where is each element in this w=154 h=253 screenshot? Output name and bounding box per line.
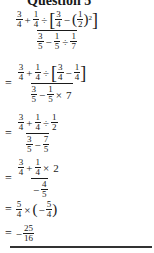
step-6-result: = − 2516 bbox=[5, 224, 34, 243]
denominator: 35 − 15 ÷ 17 bbox=[37, 30, 77, 51]
step-3: = 34 + 14 ÷ 12 35 − 75 bbox=[5, 113, 60, 154]
fraction: 14 bbox=[35, 158, 42, 177]
fraction: 34 bbox=[55, 10, 62, 29]
complex-fraction: 34 + 14 ÷ [ 34 − 14 ] 35 − 15 × 7 bbox=[16, 63, 88, 104]
complex-fraction: 34 + 14 × 2 − 45 bbox=[16, 158, 63, 199]
complex-fraction: 34 + 14 ÷ 12 35 − 75 bbox=[16, 113, 60, 154]
fraction: 75 bbox=[43, 135, 50, 154]
step-5: = 54 × ( − 54 ) bbox=[5, 200, 57, 219]
fraction: 17 bbox=[70, 32, 77, 51]
fraction: 2516 bbox=[23, 224, 34, 243]
fraction: 45 bbox=[41, 180, 48, 199]
fraction: 34 bbox=[18, 63, 25, 82]
fraction: 34 bbox=[57, 63, 64, 82]
step-2: = 34 + 14 ÷ [ 34 − 14 ] 35 − 15 × 7 bbox=[5, 63, 88, 104]
fraction: 35 bbox=[37, 32, 44, 51]
denominator: 35 − 15 × 7 bbox=[31, 83, 74, 104]
denominator: − 45 bbox=[31, 178, 48, 199]
fraction: 34 bbox=[18, 158, 25, 177]
fraction: 14 bbox=[35, 63, 42, 82]
divider-line bbox=[10, 246, 152, 248]
fraction: 15 bbox=[47, 85, 54, 104]
step-1: 34 + 14 ÷ [ 34 − ( 12 )2 ] 35 − 15 ÷ 17 bbox=[14, 10, 100, 51]
fraction: 15 bbox=[54, 32, 61, 51]
fraction: 14 bbox=[33, 10, 40, 29]
numerator: 34 + 14 ÷ [ 34 − ( 12 )2 ] bbox=[14, 10, 100, 30]
step-4: = 34 + 14 × 2 − 45 bbox=[5, 158, 63, 199]
fraction: 35 bbox=[31, 85, 38, 104]
fraction: 12 bbox=[51, 113, 58, 132]
numerator: 34 + 14 × 2 bbox=[16, 158, 63, 178]
question-title: Question 5 bbox=[27, 0, 91, 9]
fraction: 14 bbox=[35, 113, 42, 132]
fraction: 54 bbox=[16, 200, 23, 219]
denominator: 35 − 75 bbox=[26, 133, 49, 154]
numerator: 34 + 14 ÷ [ 34 − 14 ] bbox=[16, 63, 88, 83]
fraction: 35 bbox=[26, 135, 33, 154]
fraction: 34 bbox=[18, 113, 25, 132]
numerator: 34 + 14 ÷ 12 bbox=[16, 113, 60, 133]
fraction: 34 bbox=[16, 10, 23, 29]
complex-fraction: 34 + 14 ÷ [ 34 − ( 12 )2 ] 35 − 15 ÷ 17 bbox=[14, 10, 100, 51]
